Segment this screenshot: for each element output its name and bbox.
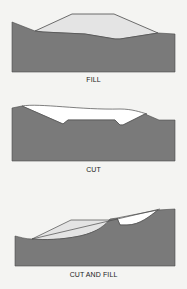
cut-and-fill-panel [15,209,175,266]
fill-panel [12,14,175,72]
earthwork-diagram [0,0,187,289]
cut-panel [12,105,175,161]
fill-caption: FILL [0,76,187,83]
cut-and-fill-caption: CUT AND FILL [0,271,187,278]
cut-caption: CUT [0,166,187,173]
